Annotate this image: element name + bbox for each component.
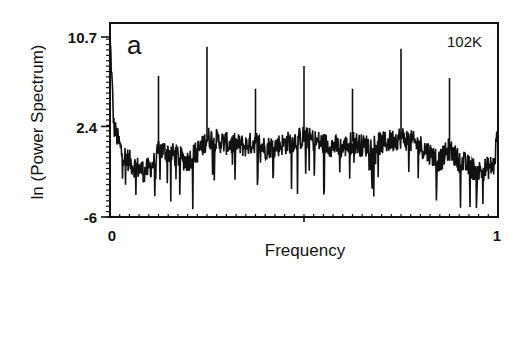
x-axis-title: Frequency (265, 241, 346, 260)
y-tick-2-4: 2.4 (76, 119, 98, 136)
x-tick-1: 1 (493, 227, 501, 244)
y-tick-10-7: 10.7 (68, 29, 97, 46)
temperature-annotation: 102K (447, 33, 482, 50)
panel-label: a (127, 30, 142, 60)
power-spectrum-chart: 10.7 2.4 -6 0 1 Frequency ln (Power Spec… (0, 0, 522, 355)
x-tick-0: 0 (108, 227, 116, 244)
y-tick-neg6: -6 (84, 209, 97, 226)
y-axis-title: ln (Power Spectrum) (28, 45, 47, 200)
